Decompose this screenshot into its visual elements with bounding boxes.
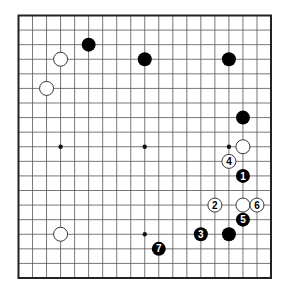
stone-disc bbox=[40, 81, 54, 95]
black-stone bbox=[138, 52, 152, 66]
stone-disc bbox=[222, 227, 236, 241]
black-stone bbox=[222, 227, 236, 241]
move-number-label: 4 bbox=[226, 156, 232, 167]
stone-disc bbox=[222, 52, 236, 66]
star-point bbox=[58, 145, 62, 149]
white-stone bbox=[40, 81, 54, 95]
white-stone bbox=[236, 140, 250, 154]
black-stone bbox=[222, 52, 236, 66]
black-stone: 1 bbox=[236, 169, 250, 183]
black-stone: 7 bbox=[152, 242, 166, 256]
white-stone: 6 bbox=[250, 198, 264, 212]
stone-disc bbox=[236, 111, 250, 125]
stone-disc bbox=[236, 198, 250, 212]
black-stone bbox=[236, 111, 250, 125]
move-number-label: 1 bbox=[240, 171, 246, 182]
star-point bbox=[143, 145, 147, 149]
move-number-label: 3 bbox=[198, 229, 204, 240]
stone-disc bbox=[82, 38, 96, 52]
black-stone: 3 bbox=[194, 227, 208, 241]
stone-disc bbox=[54, 227, 68, 241]
white-stone bbox=[236, 198, 250, 212]
black-stone: 5 bbox=[236, 213, 250, 227]
go-board-diagram: 4126537 bbox=[0, 0, 290, 300]
move-number-label: 7 bbox=[156, 243, 162, 254]
stone-disc bbox=[236, 140, 250, 154]
move-number-label: 5 bbox=[240, 214, 246, 225]
star-point bbox=[143, 232, 147, 236]
stone-disc bbox=[54, 52, 68, 66]
white-stone bbox=[54, 227, 68, 241]
stone-disc bbox=[138, 52, 152, 66]
white-stone: 4 bbox=[222, 154, 236, 168]
black-stone bbox=[82, 38, 96, 52]
white-stone bbox=[54, 52, 68, 66]
star-point bbox=[227, 145, 231, 149]
white-stone: 2 bbox=[208, 198, 222, 212]
move-number-label: 6 bbox=[254, 200, 260, 211]
move-number-label: 2 bbox=[212, 200, 218, 211]
go-board: 4126537 bbox=[0, 0, 290, 300]
